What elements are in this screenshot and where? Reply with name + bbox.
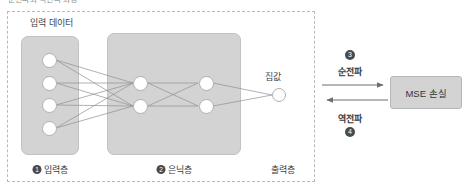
diagram-root: 순전파와 역전파 과정 입력 데이터 <box>0 0 466 189</box>
hidden-neuron-2-2 <box>199 99 214 114</box>
forward-label: 순전파 <box>338 65 362 78</box>
hidden-neuron-2-1 <box>199 76 214 91</box>
layer-badge-1: 1 <box>33 165 42 174</box>
output-node-label: 집값 <box>265 70 281 83</box>
input-neuron-3 <box>42 98 57 113</box>
backward-step-badge: 4 <box>345 127 355 137</box>
input-neuron-4 <box>42 121 57 136</box>
backward-label: 역전파 <box>338 112 362 125</box>
input-neuron-2 <box>42 76 57 91</box>
hidden-neuron-1-2 <box>133 99 148 114</box>
layer-caption-output: 출력층 <box>271 163 295 176</box>
layer-badge-2: 2 <box>157 165 166 174</box>
layer-label-input: 입력층 <box>44 165 68 175</box>
hidden-layer-box <box>107 33 241 155</box>
input-data-label: 입력 데이터 <box>30 16 73 29</box>
top-clipped-caption: 순전파와 역전파 과정 <box>8 0 78 4</box>
layer-label-hidden: 은닉층 <box>168 165 192 175</box>
layer-caption-hidden: 2은닉층 <box>157 163 192 176</box>
forward-step-badge: 3 <box>345 50 355 60</box>
output-neuron <box>272 88 286 102</box>
input-neuron-1 <box>42 53 57 68</box>
hidden-neuron-1-1 <box>133 76 148 91</box>
mse-loss-box: MSE 손실 <box>390 76 462 109</box>
layer-caption-input: 1입력층 <box>33 163 68 176</box>
